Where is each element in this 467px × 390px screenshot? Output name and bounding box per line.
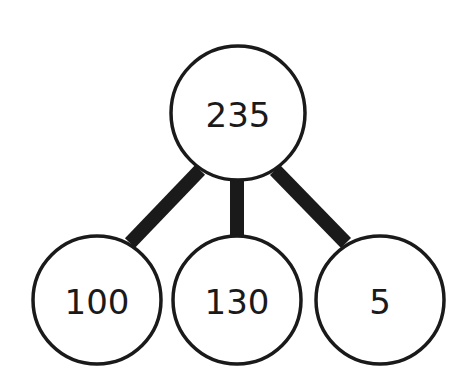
root-node-label: 235: [206, 95, 271, 135]
connector-left: [130, 170, 200, 243]
child-node-2: 130: [173, 236, 301, 364]
child-node-1: 100: [33, 236, 161, 364]
child-node-3-label: 5: [369, 282, 391, 322]
child-node-2-label: 130: [205, 282, 270, 322]
number-bond-diagram: 235 100 130 5: [0, 0, 467, 390]
child-node-1-label: 100: [65, 282, 130, 322]
connector-right: [275, 170, 346, 243]
child-node-3: 5: [316, 236, 444, 364]
root-node: 235: [171, 46, 305, 180]
